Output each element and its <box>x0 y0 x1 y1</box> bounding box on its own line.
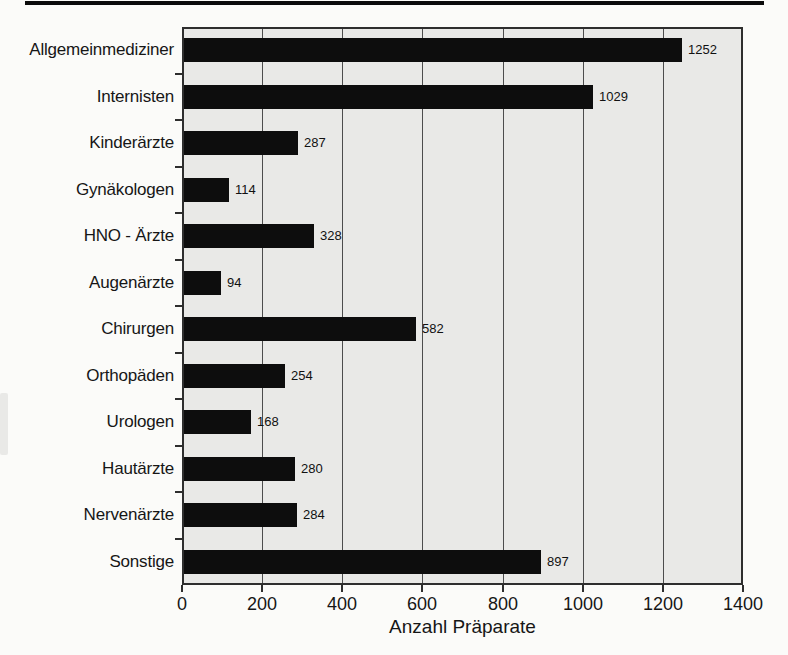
bar-2 <box>184 131 298 155</box>
bar-5 <box>184 271 221 295</box>
bar-value-1: 1029 <box>599 89 628 105</box>
y-axis-tick-1 <box>175 73 182 75</box>
bar-value-11: 897 <box>547 554 569 570</box>
y-axis-tick-10 <box>175 491 182 493</box>
bar-value-4: 328 <box>320 228 342 244</box>
x-axis-tick-label-0: 0 <box>147 593 217 615</box>
gridline-400 <box>342 29 343 583</box>
bar-value-2: 287 <box>304 135 326 151</box>
plot-area <box>182 27 743 585</box>
gridline-600 <box>422 29 423 583</box>
x-axis-tick-label-1400: 1400 <box>708 593 778 615</box>
y-axis-tick-2 <box>175 119 182 121</box>
x-axis-title: Anzahl Präparate <box>182 615 743 638</box>
x-axis-tick-label-200: 200 <box>227 593 297 615</box>
bar-value-5: 94 <box>227 275 241 291</box>
category-label-4: HNO - Ärzte <box>0 226 174 246</box>
x-axis-tick-label-400: 400 <box>307 593 377 615</box>
category-label-8: Urologen <box>0 412 174 432</box>
x-axis-tick-label-1200: 1200 <box>628 593 698 615</box>
page-top-rule <box>25 1 764 5</box>
category-label-10: Nervenärzte <box>0 505 174 525</box>
bar-4 <box>184 224 314 248</box>
bar-7 <box>184 364 285 388</box>
bar-8 <box>184 410 251 434</box>
bar-3 <box>184 178 229 202</box>
category-label-5: Augenärzte <box>0 273 174 293</box>
x-axis-tick-label-800: 800 <box>468 593 538 615</box>
bar-11 <box>184 550 541 574</box>
bar-value-6: 582 <box>422 321 444 337</box>
y-axis-tick-6 <box>175 305 182 307</box>
bar-value-3: 114 <box>235 182 256 198</box>
x-axis-tick-800 <box>502 585 504 592</box>
x-axis-tick-600 <box>421 585 423 592</box>
x-axis-tick-1000 <box>582 585 584 592</box>
bar-0 <box>184 38 682 62</box>
category-label-7: Orthopäden <box>0 366 174 386</box>
bar-value-0: 1252 <box>688 42 717 58</box>
x-axis-tick-0 <box>181 585 183 592</box>
scanned-book-page: Anzahl Präparate 1252Allgemeinmediziner1… <box>0 0 788 655</box>
bar-value-7: 254 <box>291 368 313 384</box>
y-axis-tick-7 <box>175 352 182 354</box>
category-label-3: Gynäkologen <box>0 180 174 200</box>
y-axis-tick-3 <box>175 166 182 168</box>
bar-9 <box>184 457 295 481</box>
category-label-6: Chirurgen <box>0 319 174 339</box>
x-axis-tick-200 <box>261 585 263 592</box>
gridline-1200 <box>663 29 664 583</box>
x-axis-tick-1200 <box>662 585 664 592</box>
bar-10 <box>184 503 297 527</box>
gridline-800 <box>503 29 504 583</box>
category-label-0: Allgemeinmediziner <box>0 40 174 60</box>
y-axis-tick-5 <box>175 259 182 261</box>
bar-6 <box>184 317 416 341</box>
x-axis-tick-label-600: 600 <box>387 593 457 615</box>
bar-1 <box>184 85 593 109</box>
category-label-11: Sonstige <box>0 552 174 572</box>
bar-value-8: 168 <box>257 414 279 430</box>
y-axis-tick-11 <box>175 538 182 540</box>
gridline-1000 <box>583 29 584 583</box>
x-axis-tick-400 <box>341 585 343 592</box>
category-label-1: Internisten <box>0 87 174 107</box>
gridline-200 <box>262 29 263 583</box>
bar-value-10: 284 <box>303 507 325 523</box>
bar-value-9: 280 <box>301 461 323 477</box>
category-label-2: Kinderärzte <box>0 133 174 153</box>
y-axis-tick-4 <box>175 212 182 214</box>
category-label-9: Hautärzte <box>0 459 174 479</box>
y-axis-tick-9 <box>175 445 182 447</box>
y-axis-tick-8 <box>175 398 182 400</box>
x-axis-tick-1400 <box>742 585 744 592</box>
x-axis-tick-label-1000: 1000 <box>548 593 618 615</box>
